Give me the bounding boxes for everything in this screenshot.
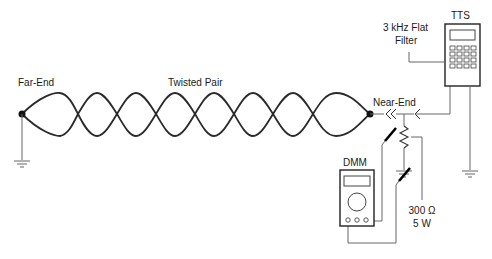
filter-label-leader <box>409 52 445 62</box>
tts-ground-icon <box>462 171 478 177</box>
filter-label-line1: 3 kHz Flat <box>383 22 428 33</box>
tts-display <box>450 30 475 40</box>
dmm-jack-com <box>346 218 350 222</box>
resistor-power-label: 5 W <box>413 218 431 229</box>
dmm-label: DMM <box>343 157 367 168</box>
probe-red-icon <box>382 128 396 145</box>
dmm-jack-v <box>364 218 368 222</box>
dmm-dial-icon <box>348 193 366 211</box>
test-setup-diagram: Far-End Twisted Pair Near-End 3 kHz Flat… <box>0 0 492 259</box>
twisted-pair-label: Twisted Pair <box>168 77 223 88</box>
far-end-ground-icon <box>14 161 30 167</box>
filter-label-line2: Filter <box>395 35 418 46</box>
dmm-device <box>340 170 374 226</box>
resistor-icon <box>400 126 408 148</box>
dmm-jack-mid <box>355 218 359 222</box>
tts-label: TTS <box>451 10 470 21</box>
near-end-label: Near-End <box>373 97 416 108</box>
resistor-label-leader <box>411 137 422 200</box>
tts-device <box>445 24 480 86</box>
far-end-label: Far-End <box>18 77 54 88</box>
twisted-pair-cable <box>22 93 370 136</box>
dmm-display <box>344 176 370 186</box>
resistor-value-label: 300 Ω <box>409 205 436 216</box>
